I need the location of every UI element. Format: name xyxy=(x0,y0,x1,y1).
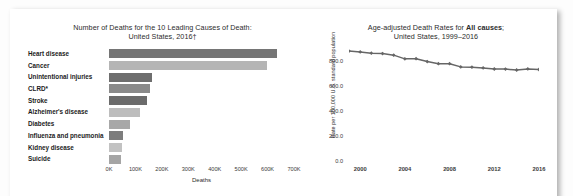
line-chart-x-axis: 20002004200820122016 xyxy=(349,166,539,176)
bar-row xyxy=(109,118,294,130)
line-data-point xyxy=(448,62,452,66)
line-data-point xyxy=(504,67,508,71)
line-x-tick: 2008 xyxy=(443,166,456,172)
line-series-path xyxy=(349,51,539,70)
line-data-point xyxy=(437,62,441,66)
line-y-tick: 600.0 xyxy=(329,83,343,89)
line-data-point xyxy=(414,57,418,61)
bar-chart-plot-area xyxy=(109,48,294,165)
bar-category-label: Alzheimer's disease xyxy=(28,106,106,118)
bar-chart-category-labels: Heart diseaseCancerUnintentional injurie… xyxy=(28,48,106,165)
line-data-point xyxy=(537,68,539,72)
line-chart-title-bold: All causes xyxy=(466,23,502,32)
chart-card: Number of Deaths for the 10 Leading Caus… xyxy=(10,9,557,196)
bar-x-tick: 200K xyxy=(155,166,168,172)
bar-row xyxy=(109,153,294,165)
bar-category-label: Stroke xyxy=(28,95,106,107)
screenshot-root: Number of Deaths for the 10 Leading Caus… xyxy=(0,0,573,196)
bar-chart-title-line2: United States, 2016† xyxy=(20,32,305,41)
line-data-point xyxy=(481,66,485,70)
line-data-point xyxy=(425,60,429,64)
bar-category-label: Kidney disease xyxy=(28,142,106,154)
bar-row xyxy=(109,130,294,142)
line-x-tick: 2000 xyxy=(354,166,367,172)
line-chart-title-line2: United States, 1999–2016 xyxy=(305,32,567,41)
bar-x-tick: 600K xyxy=(261,166,274,172)
line-chart-svg xyxy=(349,48,539,161)
line-y-tick: 400.0 xyxy=(329,108,343,114)
bar xyxy=(109,120,130,129)
line-data-point xyxy=(358,50,362,54)
bar xyxy=(109,61,267,70)
bar-chart-title: Number of Deaths for the 10 Leading Caus… xyxy=(20,23,305,42)
bar-row xyxy=(109,71,294,83)
bar-category-label: Heart disease xyxy=(28,48,106,60)
bar-x-tick: 0K xyxy=(106,166,113,172)
bar-chart-panel: Number of Deaths for the 10 Leading Caus… xyxy=(20,9,305,196)
bar xyxy=(109,108,140,117)
line-data-point xyxy=(470,65,474,69)
bar-row xyxy=(109,106,294,118)
line-data-point xyxy=(526,67,530,71)
bar-category-label: Diabetes xyxy=(28,118,106,130)
line-data-point xyxy=(403,57,407,61)
bar-row xyxy=(109,60,294,72)
bar-category-label: Cancer xyxy=(28,60,106,72)
line-data-point xyxy=(349,49,351,53)
bar-chart-x-axis-label: Deaths xyxy=(109,177,294,183)
bar xyxy=(109,131,123,140)
bar-chart-x-axis: 0K100K200K300K400K500K600K700K xyxy=(109,166,294,176)
bar-x-tick: 500K xyxy=(235,166,248,172)
bar xyxy=(109,155,121,164)
line-data-point xyxy=(392,53,396,57)
bar-row xyxy=(109,95,294,107)
bar-row xyxy=(109,83,294,95)
bar-x-tick: 100K xyxy=(129,166,142,172)
line-chart-title-prefix: Age-adjusted Death Rates for xyxy=(368,23,466,32)
line-data-point xyxy=(369,51,373,55)
bar xyxy=(109,73,152,82)
line-chart-title-suffix: ; xyxy=(502,23,504,32)
bar-category-label: Influenza and pneumonia xyxy=(28,130,106,142)
line-y-tick: 800.0 xyxy=(329,58,343,64)
line-y-tick: 0.0 xyxy=(335,158,343,164)
bar-x-tick: 300K xyxy=(182,166,195,172)
bar-category-label: Suicide xyxy=(28,153,106,165)
bar xyxy=(109,143,122,152)
line-chart-plot-area xyxy=(349,48,539,161)
line-chart-panel: Age-adjusted Death Rates for All causes;… xyxy=(305,9,567,196)
line-chart-title: Age-adjusted Death Rates for All causes;… xyxy=(305,23,567,42)
bar-x-tick: 400K xyxy=(208,166,221,172)
line-data-point xyxy=(515,68,519,72)
line-data-point xyxy=(492,67,496,71)
bar xyxy=(109,96,147,105)
bar-chart-title-line1: Number of Deaths for the 10 Leading Caus… xyxy=(73,23,251,32)
line-data-point xyxy=(459,65,463,69)
bar-category-label: CLRD* xyxy=(28,83,106,95)
line-x-tick: 2004 xyxy=(398,166,411,172)
line-data-point xyxy=(381,52,385,56)
line-x-tick: 2016 xyxy=(533,166,546,172)
bar xyxy=(109,84,150,93)
bar-x-tick: 700K xyxy=(287,166,300,172)
bar-category-label: Unintentional injuries xyxy=(28,71,106,83)
line-y-tick: 200.0 xyxy=(329,133,343,139)
line-chart-y-axis: 0.0200.0400.0600.0800.0 xyxy=(305,48,345,161)
bar-row xyxy=(109,142,294,154)
bar xyxy=(109,49,277,58)
bar-row xyxy=(109,48,294,60)
line-x-tick: 2012 xyxy=(488,166,501,172)
